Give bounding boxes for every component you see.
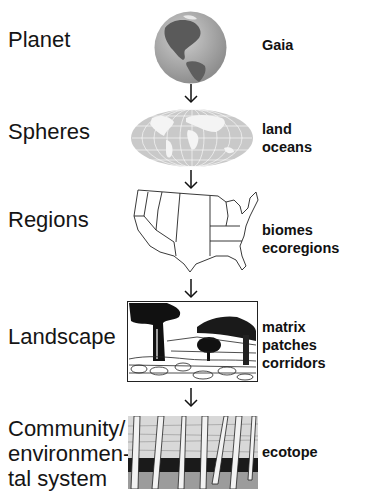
descriptor-patches: patches [262,336,326,354]
landscape-illustration [127,301,258,382]
descriptor-ecotope: ecotope [262,443,318,461]
level-label-community: Community/ environmen- tal system [8,416,130,491]
descriptor-oceans: oceans [262,138,312,156]
world-map-icon [130,108,254,168]
level-label-planet: Planet [8,28,70,52]
descriptor-list-spheres: land oceans [262,120,312,156]
level-label-line: Community/ [8,416,130,441]
level-label-line: tal system [8,466,130,491]
us-map-icon [130,186,260,276]
level-label-spheres: Spheres [8,120,90,144]
down-arrow-icon [184,279,198,299]
descriptor-corridors: corridors [262,354,326,372]
globe-icon [153,10,228,85]
down-arrow-icon [184,84,198,104]
descriptor-gaia: Gaia [262,36,293,54]
descriptor-matrix: matrix [262,318,326,336]
birch-forest-illustration [128,416,258,489]
down-arrow-icon [184,388,198,408]
descriptor-land: land [262,120,312,138]
descriptor-list-regions: biomes ecoregions [262,221,339,257]
descriptor-biomes: biomes [262,221,339,239]
descriptor-list-landscape: matrix patches corridors [262,318,326,372]
level-label-line: environmen- [8,441,130,466]
level-label-regions: Regions [8,208,89,232]
level-label-landscape: Landscape [8,325,116,349]
descriptor-ecoregions: ecoregions [262,239,339,257]
